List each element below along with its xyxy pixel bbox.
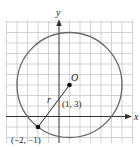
- labels-layer: y x O (1, 3) r (−2, −1): [0, 0, 140, 147]
- y-axis-label: y: [55, 7, 61, 18]
- circle-diagram: y x O (1, 3) r (−2, −1): [0, 0, 140, 147]
- endpoint-coords-label: (−2, −1): [11, 135, 41, 145]
- x-axis-label: x: [133, 111, 139, 122]
- center-label: O: [71, 72, 78, 83]
- center-coords-label: (1, 3): [62, 99, 82, 109]
- radius-label: r: [47, 94, 51, 105]
